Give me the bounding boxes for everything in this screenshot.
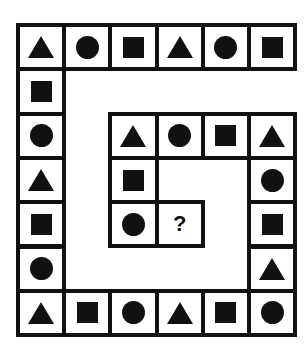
puzzle-cell xyxy=(155,112,205,160)
circle-icon xyxy=(168,124,191,147)
square-icon xyxy=(262,214,283,235)
puzzle-cell xyxy=(108,156,158,204)
puzzle-cell xyxy=(155,289,205,337)
circle-icon xyxy=(30,257,53,280)
puzzle-cell xyxy=(201,112,251,160)
square-icon xyxy=(262,37,283,58)
puzzle-cell xyxy=(201,289,251,337)
triangle-icon xyxy=(28,169,54,191)
puzzle-cell xyxy=(108,289,158,337)
puzzle-cell xyxy=(247,156,297,204)
square-icon xyxy=(31,214,52,235)
puzzle-cell xyxy=(247,289,297,337)
question-mark: ? xyxy=(173,211,186,237)
puzzle-cell xyxy=(16,156,66,204)
puzzle-cell xyxy=(247,23,297,71)
puzzle-cell xyxy=(16,23,66,71)
circle-icon xyxy=(122,301,145,324)
triangle-icon xyxy=(28,302,54,324)
puzzle-cell xyxy=(155,23,205,71)
puzzle-cell xyxy=(108,200,158,248)
square-icon xyxy=(123,37,144,58)
puzzle-cell xyxy=(62,289,112,337)
triangle-icon xyxy=(28,36,54,58)
square-icon xyxy=(123,170,144,191)
puzzle-cell xyxy=(62,23,112,71)
puzzle-cell xyxy=(247,200,297,248)
puzzle-cell xyxy=(108,23,158,71)
square-icon xyxy=(77,302,98,323)
puzzle-cell xyxy=(16,200,66,248)
puzzle-cell xyxy=(201,23,251,71)
circle-icon xyxy=(76,36,99,59)
square-icon xyxy=(215,302,236,323)
triangle-icon xyxy=(120,125,146,147)
puzzle-cell xyxy=(16,67,66,115)
puzzle-cell xyxy=(247,112,297,160)
puzzle-cell xyxy=(247,245,297,293)
puzzle-cell xyxy=(108,112,158,160)
triangle-icon xyxy=(167,302,193,324)
puzzle-cell xyxy=(16,112,66,160)
triangle-icon xyxy=(259,258,285,280)
puzzle-cell xyxy=(16,289,66,337)
circle-icon xyxy=(30,124,53,147)
puzzle-cell[interactable]: ? xyxy=(155,200,205,248)
circle-icon xyxy=(214,36,237,59)
circle-icon xyxy=(122,213,145,236)
square-icon xyxy=(215,125,236,146)
circle-icon xyxy=(261,301,284,324)
triangle-icon xyxy=(259,125,285,147)
triangle-icon xyxy=(167,36,193,58)
puzzle-cell xyxy=(16,245,66,293)
square-icon xyxy=(31,81,52,102)
circle-icon xyxy=(261,169,284,192)
